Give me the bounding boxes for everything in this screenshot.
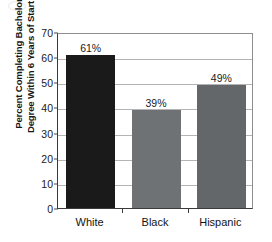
x-axis-category-label: Hispanic [175, 216, 265, 228]
x-axis-tick-mark [188, 209, 189, 213]
x-axis: WhiteBlackHispanic [57, 209, 253, 242]
y-axis-tick-label: 10 [30, 178, 53, 190]
y-axis-tick-label: 30 [30, 128, 53, 140]
bar-value-label: 49% [191, 72, 251, 84]
bar-hispanic [197, 85, 246, 208]
y-axis-tick-label: 50 [30, 77, 53, 89]
y-axis-tick-label: 0 [30, 203, 53, 215]
bar-value-label: 61% [61, 42, 121, 54]
y-axis-title-line-1: Percent Completing Bachelor's [13, 0, 25, 129]
y-axis-tick-label: 70 [30, 27, 53, 39]
y-axis-tick-label: 20 [30, 153, 53, 165]
y-axis-tick-label: 40 [30, 102, 53, 114]
bar-chart: Percent Completing Bachelor's Degree Wit… [0, 0, 272, 242]
x-axis-tick-mark [122, 209, 123, 213]
y-axis-tick-label: 60 [30, 52, 53, 64]
bar-black [132, 110, 181, 208]
bar-white [66, 55, 115, 208]
bar-value-label: 39% [126, 97, 186, 109]
bars-layer: 61%39%49% [58, 34, 252, 208]
y-axis-tick-labels: 010203040506070 [30, 0, 53, 242]
plot-area: 61%39%49% [57, 33, 253, 209]
